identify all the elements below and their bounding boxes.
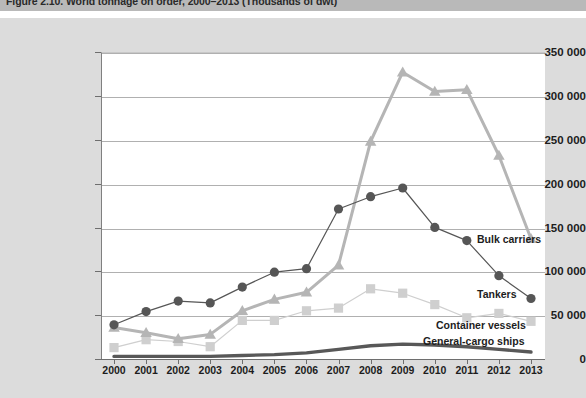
x-tick-mark-2009 (403, 360, 404, 364)
x-tick-label-2012: 2012 (487, 364, 510, 376)
x-tick-label-2003: 2003 (199, 364, 222, 376)
y-tick-label-250000: 250 000 (500, 134, 586, 146)
gridline-200000 (102, 185, 545, 186)
y-tick-mark-300000 (95, 96, 101, 97)
gridline-50000 (102, 316, 545, 317)
y-tick-label-0: 0 (500, 353, 586, 365)
y-tick-mark-50000 (95, 315, 101, 316)
x-tick-mark-2010 (435, 360, 436, 364)
x-tick-mark-2008 (371, 360, 372, 364)
x-tick-label-2011: 2011 (455, 364, 478, 376)
x-tick-label-2004: 2004 (231, 364, 254, 376)
x-tick-label-2007: 2007 (327, 364, 350, 376)
caption-spacer (0, 11, 586, 18)
figure-caption-bar: Figure 2.10. World tonnage on order, 200… (0, 0, 586, 11)
y-tick-mark-100000 (95, 271, 101, 272)
y-tick-mark-150000 (95, 228, 101, 229)
series-label-bulk-carriers: Bulk carriers (477, 233, 541, 245)
x-tick-mark-2004 (242, 360, 243, 364)
gridline-350000 (102, 53, 545, 54)
gridline-300000 (102, 97, 545, 98)
y-tick-mark-250000 (95, 140, 101, 141)
x-tick-mark-2003 (210, 360, 211, 364)
figure-caption: Figure 2.10. World tonnage on order, 200… (6, 0, 337, 7)
x-tick-mark-2000 (114, 360, 115, 364)
x-tick-mark-2007 (339, 360, 340, 364)
y-tick-label-350000: 350 000 (500, 46, 586, 58)
x-tick-label-2009: 2009 (391, 364, 414, 376)
x-tick-label-2005: 2005 (263, 364, 286, 376)
x-axis-line (101, 359, 545, 360)
plot-area (101, 52, 545, 360)
x-tick-mark-2001 (146, 360, 147, 364)
x-tick-label-2002: 2002 (166, 364, 189, 376)
x-tick-mark-2013 (531, 360, 532, 364)
gridline-150000 (102, 229, 545, 230)
x-tick-label-2000: 2000 (102, 364, 125, 376)
y-tick-label-100000: 100 000 (500, 265, 586, 277)
x-tick-label-2008: 2008 (359, 364, 382, 376)
series-label-general-cargo-ships: General-cargo ships (423, 335, 525, 347)
y-tick-mark-0 (95, 359, 101, 360)
x-tick-mark-2011 (467, 360, 468, 364)
gridline-250000 (102, 141, 545, 142)
x-tick-label-2010: 2010 (423, 364, 446, 376)
y-tick-mark-200000 (95, 184, 101, 185)
x-tick-label-2006: 2006 (295, 364, 318, 376)
x-tick-mark-2002 (178, 360, 179, 364)
y-tick-label-300000: 300 000 (500, 90, 586, 102)
gridline-100000 (102, 272, 545, 273)
figure-screenshot: Figure 2.10. World tonnage on order, 200… (0, 0, 586, 398)
x-tick-mark-2006 (306, 360, 307, 364)
y-tick-mark-350000 (95, 52, 101, 53)
y-tick-label-200000: 200 000 (500, 178, 586, 190)
series-label-tankers: Tankers (477, 288, 517, 300)
x-tick-label-2001: 2001 (134, 364, 157, 376)
x-tick-mark-2012 (499, 360, 500, 364)
x-tick-label-2013: 2013 (519, 364, 542, 376)
x-tick-mark-2005 (274, 360, 275, 364)
series-label-container-vessels: Container vessels (436, 319, 526, 331)
